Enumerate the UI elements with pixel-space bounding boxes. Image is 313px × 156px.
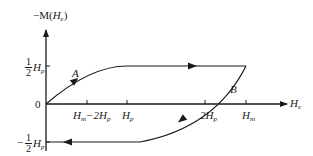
curve-b-arrow-icon [176,114,187,125]
y-tick-label-neg-half-var: Hp [33,138,44,151]
lower-branch-arrow-icon [63,139,72,146]
curve-b-label: B [230,84,237,95]
upper-branch-arrow-icon [188,63,197,70]
x-tick-label-2hp: 2Hp [200,110,217,123]
y-tick-label-half-var: Hp [33,62,44,75]
x-tick-label-hm: Hm [242,110,255,123]
y-tick-label-half-fraction: 1 2 [25,57,32,78]
curve-a-label: A [72,68,79,79]
curve-a [46,66,127,104]
x-axis-label: He [290,98,301,111]
y-tick-label-neg-sign: − [17,137,23,148]
y-axis-label: −M(He) [33,10,67,23]
x-tick-label-hp: Hp [122,110,133,123]
hysteresis-diagram [0,0,313,156]
x-tick-label-hm-minus-2hp: Hm−2Hp [73,110,110,123]
y-tick-label-neg-half-fraction: 1 2 [25,133,32,154]
origin-label: 0 [35,99,41,110]
